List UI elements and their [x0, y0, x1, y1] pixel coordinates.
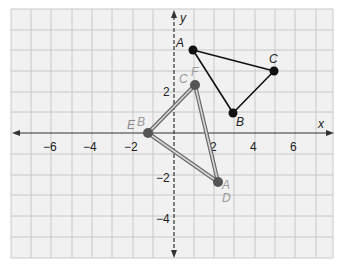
x-tick-label: 6: [290, 140, 297, 154]
label-f: F: [191, 65, 199, 79]
point-c: [270, 67, 279, 76]
label-d: D: [222, 191, 231, 205]
label-b: B: [236, 115, 244, 129]
coordinate-plane: x y −6 −4 −2 2 4 6 2 −2 −4 A B C C F E B…: [0, 0, 354, 272]
label-grey-a: A: [221, 178, 230, 192]
x-tick-label: −2: [124, 140, 138, 154]
y-tick-label: 2: [163, 85, 170, 99]
label-grey-b: B: [137, 115, 145, 129]
point-f: [190, 80, 200, 90]
x-tick-label: −6: [43, 140, 57, 154]
label-c: C: [269, 52, 278, 66]
x-tick-label: −4: [83, 140, 97, 154]
x-tick-label: 4: [250, 140, 257, 154]
label-e: E: [127, 118, 136, 132]
y-tick-label: −2: [156, 171, 170, 185]
point-e: [143, 128, 153, 138]
y-axis-label: y: [179, 11, 187, 25]
label-a: A: [175, 36, 184, 50]
x-axis-label: x: [317, 117, 325, 131]
y-tick-label: −4: [156, 212, 170, 226]
point-a: [189, 46, 198, 55]
label-grey-c: C: [179, 72, 188, 86]
